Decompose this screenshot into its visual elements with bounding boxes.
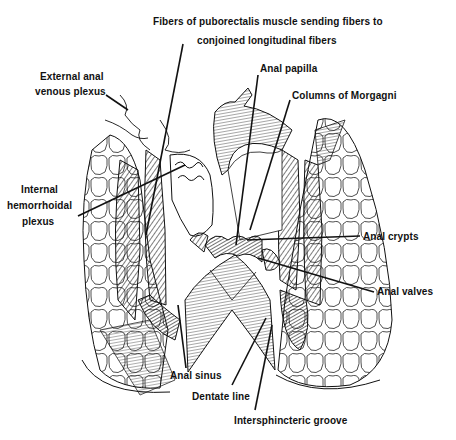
label-anal-sinus: Anal sinus <box>170 370 222 382</box>
label-external-plexus-line2: venous plexus <box>35 86 106 98</box>
leader-anal-sinus <box>178 305 186 368</box>
label-columns-of-morgagni: Columns of Morgagni <box>292 90 397 102</box>
anatomy-diagram: Fibers of puborectalis muscle sending fi… <box>0 0 456 440</box>
anal-canal-skin <box>185 255 275 372</box>
label-anal-papilla: Anal papilla <box>260 63 317 75</box>
label-intersphincteric-groove: Intersphincteric groove <box>234 415 347 427</box>
label-puborectalis-line1: Fibers of puborectalis muscle sending fi… <box>153 16 383 28</box>
leader-external-plexus <box>106 95 128 110</box>
label-anal-crypts: Anal crypts <box>363 231 419 243</box>
label-internal-plexus-line1: Internal <box>21 184 58 196</box>
label-dentate-line: Dentate line <box>192 391 250 403</box>
anal-canal-illustration <box>0 0 456 440</box>
label-internal-plexus-line2: hemorrhoidal <box>7 200 72 212</box>
label-anal-valves: Anal valves <box>377 286 433 298</box>
label-external-plexus-line1: External anal <box>40 71 104 83</box>
label-puborectalis-line2: conjoined longitudinal fibers <box>197 35 337 47</box>
label-internal-plexus-line3: plexus <box>22 216 54 228</box>
